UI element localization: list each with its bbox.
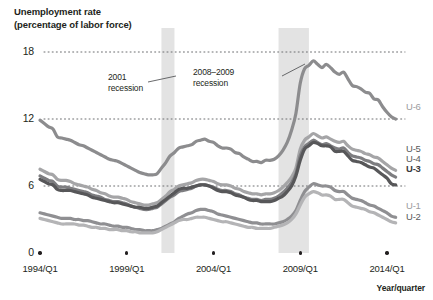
chart-subtitle: (percentage of labor force)	[14, 19, 132, 32]
x-tick-dot-1994	[38, 251, 41, 254]
x-tick-dot-2009	[299, 251, 302, 254]
x-axis-label-2004: 2004/Q1	[183, 263, 243, 274]
annotation-2001-recession: 2001 recession	[106, 70, 146, 96]
annotation-2001-line2: recession	[108, 83, 143, 94]
chart-title: Unemployment rate (percentage of labor f…	[14, 6, 132, 31]
recession-band-1	[161, 28, 174, 253]
series-label-u2: U-2	[406, 211, 421, 222]
plot-area	[0, 0, 433, 300]
series-label-u6: U-6	[406, 101, 421, 112]
chart-title-line1: Unemployment rate	[14, 6, 132, 19]
x-axis-label-1994: 1994/Q1	[10, 263, 70, 274]
annotation-2008-line2: recession	[193, 78, 234, 89]
x-axis-title: Year/quarter	[377, 283, 425, 293]
annotation-2008-2009-recession: 2008–2009 recession	[191, 65, 237, 91]
y-axis-label-18: 18	[8, 45, 34, 57]
x-tick-dot-2014	[385, 251, 388, 254]
series-label-u1: U-1	[406, 200, 421, 211]
unemployment-rate-chart: Unemployment rate (percentage of labor f…	[0, 0, 433, 300]
x-axis-label-2014: 2014/Q1	[357, 263, 417, 274]
y-axis-label-12: 12	[8, 112, 34, 124]
x-axis-label-2009: 2009/Q1	[270, 263, 330, 274]
annotation-2001-line1: 2001	[108, 72, 143, 83]
x-tick-dot-2004	[212, 251, 215, 254]
annotation-2008-line1: 2008–2009	[193, 67, 234, 78]
series-label-u3: U-3	[406, 163, 421, 174]
y-axis-label-6: 6	[8, 179, 34, 191]
x-axis-label-1999: 1999/Q1	[97, 263, 157, 274]
y-axis-label-0: 0	[8, 246, 34, 258]
